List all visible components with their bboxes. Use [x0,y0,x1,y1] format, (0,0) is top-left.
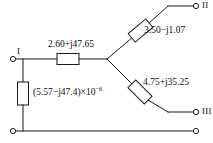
upper-branch-impedance-label: 3.50−j1.07 [144,26,185,36]
terminal-dot-ground-left[interactable] [10,128,15,133]
series-impedance-box [57,54,79,65]
terminal-dot-ground-right[interactable] [193,128,198,133]
wire-upper-resistor-to-bend [148,6,168,24]
shunt-admittance-label-text: (5.57−j47.4)×10 [33,87,95,97]
terminal-label-II: II [202,1,209,10]
wire-junction-to-upper-resistor [107,37,133,59]
shunt-admittance-label-exponent: −6 [95,85,102,92]
terminal-dot-I[interactable] [10,56,15,61]
terminal-label-III: III [202,107,212,116]
terminal-label-I: I [17,47,20,56]
lower-branch-impedance-label: 4.75+j35.25 [143,78,189,88]
terminal-dot-III[interactable] [193,109,198,114]
wire-junction-to-lower-resistor [107,59,132,84]
circuit-schematic-canvas [0,0,213,143]
shunt-admittance-box [18,82,29,105]
circuit-diagram: 2.60+j47.65 (5.57−j47.4)×10−6 3.50−j1.07… [0,0,213,143]
terminal-dot-II[interactable] [193,3,198,8]
shunt-admittance-label: (5.57−j47.4)×10−6 [33,88,102,98]
series-impedance-label: 2.60+j47.65 [48,40,94,50]
wire-lower-resistor-to-bend [148,100,168,112]
